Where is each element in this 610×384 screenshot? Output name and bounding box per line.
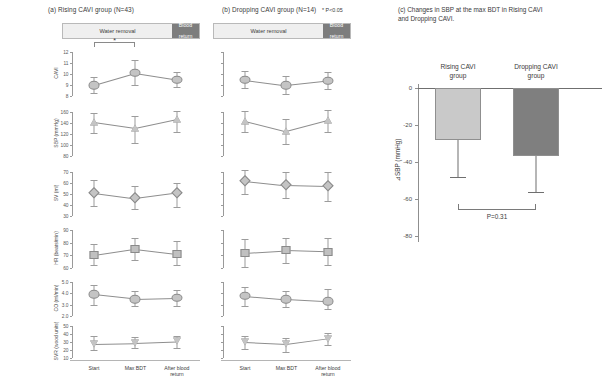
c-bar-1 — [513, 88, 559, 156]
y-tick-10 — [221, 358, 224, 359]
data-marker-down-triangle-2 — [173, 338, 181, 345]
data-marker-square-0 — [240, 249, 249, 257]
y-ticklabel-10: 10 — [63, 356, 68, 361]
data-marker-down-triangle-1 — [131, 339, 139, 346]
data-marker-diamond-1 — [130, 192, 142, 204]
error-cap-high-1 — [132, 238, 139, 239]
error-cap-high-0 — [241, 239, 248, 240]
plot-row-0-panel-1 — [223, 52, 345, 96]
y-ticklabel-40: 40 — [63, 332, 68, 337]
error-cap-low-2 — [173, 207, 180, 208]
error-cap-low-1 — [283, 198, 290, 199]
y-tick-120 — [70, 134, 73, 135]
y-tick-20 — [221, 350, 224, 351]
x-axis-label-2-panel-0: After bloodreturn — [160, 365, 194, 377]
error-cap-high-0 — [241, 170, 248, 171]
y-ticklabel-70: 70 — [63, 253, 68, 258]
error-cap-low-1 — [283, 263, 290, 264]
y-ticklabel-140: 140 — [60, 121, 68, 126]
plot-row-4-panel-0: 2.03.04.05.0CO (ml/min) — [72, 282, 194, 316]
error-cap-low-0 — [90, 93, 97, 94]
y-tick-8 — [221, 96, 224, 97]
error-cap-high-2 — [324, 289, 331, 290]
y-tick-90 — [221, 230, 224, 231]
y-tick-70 — [70, 172, 73, 173]
y-tick-80 — [70, 243, 73, 244]
data-marker-circle-2 — [322, 297, 333, 306]
y-ticklabel-160: 160 — [60, 110, 68, 115]
data-marker-triangle-2 — [173, 116, 181, 123]
y-axis-row-4-panel-1 — [223, 282, 224, 316]
y-tick-60 — [70, 183, 73, 184]
data-marker-square-1 — [282, 246, 291, 254]
c-error-cap-0 — [450, 177, 466, 178]
error-cap-high-0 — [241, 336, 248, 337]
error-cap-high-2 — [173, 183, 180, 184]
y-ticklabel-10: 10 — [63, 72, 68, 77]
y-ticklabel-4: 4.0 — [62, 291, 69, 296]
y-ticklabel-60: 60 — [63, 266, 68, 271]
error-cap-high-1 — [132, 337, 139, 338]
x-axis-label-2-panel-1: After bloodreturn — [311, 365, 345, 377]
plot-row-5-panel-0: 1020304050SVR (wood units) — [72, 326, 194, 358]
error-cap-low-1 — [132, 348, 139, 349]
y-ticklabel-50: 50 — [63, 192, 68, 197]
y-tick-80 — [221, 243, 224, 244]
plot-row-1-panel-1 — [223, 112, 345, 156]
data-marker-circle-1 — [130, 69, 141, 78]
data-marker-diamond-2 — [171, 187, 183, 199]
y-tick-50 — [70, 326, 73, 327]
phase-blood-return-b: Blood return — [323, 24, 350, 38]
error-cap-high-0 — [90, 180, 97, 181]
data-marker-circle-2 — [171, 75, 182, 84]
error-cap-high-2 — [324, 333, 331, 334]
y-tick-10 — [70, 358, 73, 359]
error-cap-high-1 — [283, 119, 290, 120]
plot-row-2-panel-1 — [223, 172, 345, 216]
panel-b-title: (b) Dropping CAVI group (N=14) — [222, 6, 316, 13]
data-marker-down-triangle-0 — [241, 339, 249, 346]
error-cap-low-0 — [241, 267, 248, 268]
data-marker-down-triangle-0 — [90, 340, 98, 347]
data-marker-circle-0 — [88, 290, 99, 299]
c-group-label-1: Dropping CAVIgroup — [501, 62, 571, 80]
y-axis-row-4-panel-0 — [72, 282, 73, 316]
y-ticklabel-8: 8 — [66, 94, 69, 99]
y-tick-50 — [221, 194, 224, 195]
error-cap-high-2 — [173, 290, 180, 291]
y-axis-row-5-panel-1 — [223, 326, 224, 358]
y-tick-2 — [221, 316, 224, 317]
c-y-ticklabel-0: 0 — [394, 85, 412, 91]
y-tick-40 — [70, 334, 73, 335]
y-ticklabel-5: 5.0 — [62, 280, 69, 285]
error-cap-low-1 — [283, 94, 290, 95]
y-tick-10 — [70, 74, 73, 75]
c-y-ticklabel--80: -80 — [394, 233, 412, 239]
line-segment-0 — [94, 249, 136, 256]
y-tick-140 — [221, 123, 224, 124]
error-cap-high-0 — [90, 77, 97, 78]
figure-canvas: (a) Rising CAVI group (N=43) (b) Droppin… — [0, 0, 610, 384]
phase-blood-return: Blood return — [172, 24, 199, 38]
y-ticklabel-100: 100 — [60, 143, 68, 148]
error-cap-low-0 — [90, 305, 97, 306]
y-ticklabel-50: 50 — [63, 324, 68, 329]
y-tick-8 — [70, 96, 73, 97]
data-marker-triangle-0 — [90, 118, 98, 125]
y-ticklabel-80: 80 — [63, 154, 68, 159]
plot-row-2-panel-0: 3040506070SV (ml) — [72, 172, 194, 216]
y-ticklabel-30: 30 — [63, 340, 68, 345]
error-cap-low-1 — [132, 260, 139, 261]
error-cap-low-0 — [90, 350, 97, 351]
plot-row-3-panel-0: 60708090HR (beats/min) — [72, 230, 194, 268]
error-cap-low-0 — [90, 265, 97, 266]
error-cap-low-1 — [132, 85, 139, 86]
y-tick-50 — [70, 194, 73, 195]
y-axis-row-0-panel-1 — [223, 52, 224, 96]
phase-bar-panel-a: Water removal Blood return — [62, 23, 200, 39]
plot-row-0-panel-0: 89101112CAVI* — [72, 52, 194, 96]
error-cap-high-2 — [324, 110, 331, 111]
y-axis-row-3-panel-0 — [72, 230, 73, 268]
data-marker-down-triangle-1 — [282, 341, 290, 348]
error-cap-low-0 — [90, 206, 97, 207]
